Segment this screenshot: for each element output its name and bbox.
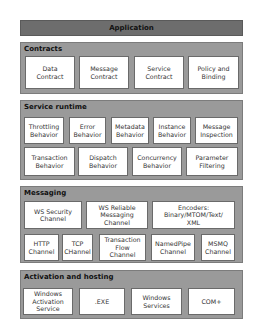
messaging-section: Messaging WS Security Channel WS Reliabl… bbox=[20, 186, 243, 263]
service-contract-box: Service Contract bbox=[134, 56, 184, 89]
message-contract-box: Message Contract bbox=[79, 56, 129, 89]
contracts-section: Contracts Data Contract Message Contract… bbox=[20, 42, 243, 94]
data-contract-box: Data Contract bbox=[25, 56, 75, 89]
throttling-behavior-box: Throttling Behavior bbox=[24, 117, 64, 144]
encoders-box: Encoders: Binary/MTOM/Text/ XML bbox=[152, 201, 235, 229]
windows-services-box: Windows Services bbox=[131, 288, 182, 315]
messaging-title: Messaging bbox=[24, 189, 66, 197]
transaction-behavior-box: Transaction Behavior bbox=[24, 147, 75, 176]
tcp-channel-box: TCP CHannel bbox=[62, 234, 93, 261]
service-runtime-title: Service runtime bbox=[24, 103, 87, 111]
parameter-filtering-box: Parameter Filtering bbox=[186, 147, 238, 176]
policy-binding-box: Policy and Binding bbox=[188, 56, 239, 89]
dispatch-behavior-box: Dispatch Behavior bbox=[78, 147, 128, 176]
ws-reliable-messaging-box: WS Reliable Messaging Channel bbox=[86, 201, 148, 229]
activation-hosting-section: Activation and hosting Windows Activatio… bbox=[20, 270, 243, 319]
msmq-channel-box: MSMQ Channel bbox=[201, 234, 235, 261]
ws-security-channel-box: WS Security Channel bbox=[24, 201, 82, 229]
concurrency-behavior-box: Concurrency Behavior bbox=[132, 147, 182, 176]
windows-activation-service-box: Windows Activation Service bbox=[23, 288, 73, 315]
application-layer: Application bbox=[20, 20, 243, 36]
namedpipe-channel-box: NamedPipe Channel bbox=[151, 234, 195, 261]
exe-box: .EXE bbox=[79, 288, 125, 315]
contracts-title: Contracts bbox=[24, 45, 62, 53]
transaction-flow-channel-box: Transaction Flow Channel bbox=[99, 234, 146, 261]
application-label: Application bbox=[109, 24, 154, 32]
message-inspection-box: Message Inspection bbox=[195, 117, 238, 144]
metadata-behavior-box: Metadata Behavior bbox=[111, 117, 149, 144]
service-runtime-section: Service runtime Throttling Behavior Erro… bbox=[20, 100, 243, 180]
http-channel-box: HTTP Channel bbox=[24, 234, 59, 261]
instance-behavior-box: Instance Behavior bbox=[153, 117, 191, 144]
com-plus-box: COM+ bbox=[188, 288, 235, 315]
error-behavior-box: Error Behavior bbox=[69, 117, 106, 144]
activation-hosting-title: Activation and hosting bbox=[24, 273, 113, 281]
